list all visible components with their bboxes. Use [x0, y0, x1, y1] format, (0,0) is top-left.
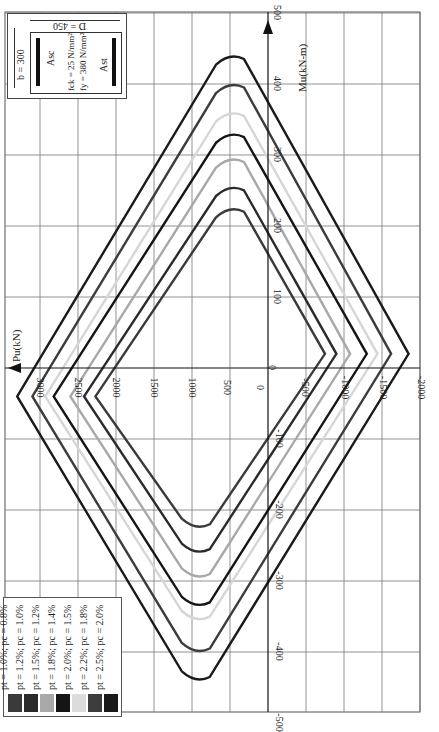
- mu-axis-label: Mu(kN-m): [296, 44, 308, 92]
- fck-label: fck = 25 N/mm²: [66, 33, 76, 91]
- asc-bar: [36, 38, 40, 86]
- mu-tick-label: 300: [272, 147, 283, 162]
- width-label: b = 300: [15, 49, 26, 80]
- pu-tick-label: -2000: [416, 376, 427, 399]
- legend-swatch: [8, 694, 22, 712]
- interaction-curve: [84, 188, 336, 552]
- pu-tick-label: -1000: [340, 376, 351, 399]
- mu-tick-label: -400: [274, 642, 285, 660]
- mu-tick-label: 400: [272, 76, 283, 91]
- mu-tick-label: 100: [272, 289, 283, 304]
- legend-swatch: [72, 694, 86, 712]
- legend-label: pt = 1.5%; pc = 1.2%: [30, 595, 41, 690]
- pu-tick-label: 500: [222, 380, 233, 395]
- legend-item: pt = 2.5%; pc = 2.0%: [104, 600, 118, 712]
- pu-tick-label: 2000: [111, 378, 122, 398]
- ast-bar: [112, 38, 116, 86]
- mu-tick-label: -100: [274, 429, 285, 447]
- fy-label: fy = 380 N/mm²: [78, 32, 88, 91]
- pu-arrow-icon: [8, 363, 21, 373]
- mu-tick-label: -500: [274, 713, 285, 731]
- mu-tick-label: 200: [272, 218, 283, 233]
- mu-tick-label: -200: [274, 500, 285, 518]
- pu-tick-label: 3000: [35, 378, 46, 398]
- legend-label: pt = 1.0%; pc = 0.8%: [0, 595, 9, 690]
- depth-label: D = 450: [53, 21, 86, 32]
- legend-label: pt = 2.5%; pc = 2.0%: [94, 595, 105, 690]
- legend-swatch: [56, 694, 70, 712]
- legend-swatch: [40, 694, 54, 712]
- legend-swatch: [24, 694, 38, 712]
- pu-axis-label: Pu(kN): [10, 330, 22, 362]
- mu-arrow-icon: [263, 20, 273, 34]
- mu-tick-label: 500: [272, 5, 283, 20]
- ast-label: Ast: [98, 58, 109, 72]
- legend-label: pt = 1.8%; pc = 1.4%: [46, 595, 57, 690]
- pu-tick-label: -500: [300, 378, 311, 396]
- pu-tick-label: 1500: [149, 378, 160, 398]
- legend-label: pt = 1.2%; pc = 1.0%: [14, 595, 25, 690]
- legend: pt = 1.0%; pc = 0.8%pt = 1.2%; pc = 1.0%…: [3, 597, 122, 717]
- legend-label: pt = 2.0%; pc = 1.5%: [62, 595, 73, 690]
- asc-label: Asc: [45, 50, 56, 66]
- cross-section-inset: b = 300 D = 450 Asc Ast fck = 25 N/mm² f…: [7, 13, 127, 99]
- mu-tick-label: -300: [274, 571, 285, 589]
- legend-swatch: [104, 694, 118, 712]
- pu-tick-label: 0: [255, 385, 266, 390]
- pu-tick-label: 1000: [187, 378, 198, 398]
- legend-label: pt = 2.2%; pc = 1.8%: [78, 595, 89, 690]
- legend-swatch: [88, 694, 102, 712]
- pu-tick-label: 2500: [73, 378, 84, 398]
- pu-tick-label: -1500: [378, 376, 389, 399]
- mu-tick-label: 0: [267, 365, 278, 370]
